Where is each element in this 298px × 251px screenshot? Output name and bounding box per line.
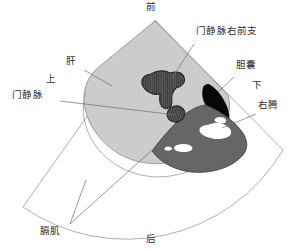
orientation-marker-superior: 上 [46, 74, 56, 84]
leader-gallbladder [218, 77, 234, 92]
callout-label-portal-vein-right-anterior-branch: 门静脉右前支 [196, 26, 258, 36]
callout-label-liver: 肝 [66, 56, 76, 66]
callout-label-gallbladder: 胆囊 [236, 60, 257, 70]
callout-label-right-kidney: 右腾 [258, 100, 279, 110]
orientation-marker-anterior: 前 [146, 2, 156, 12]
figure-canvas [0, 0, 298, 251]
orientation-marker-posterior: 后 [146, 234, 156, 244]
callout-label-portal-vein: 门静脉 [12, 90, 43, 100]
orientation-marker-inferior: 下 [252, 80, 262, 90]
callout-label-diaphragm: 膈肌 [40, 226, 61, 236]
ultrasound-anatomy-figure: 门静脉右前支 胆囊 右腾 肝 门静脉 膈肌 前 后 上 下 [0, 0, 298, 251]
